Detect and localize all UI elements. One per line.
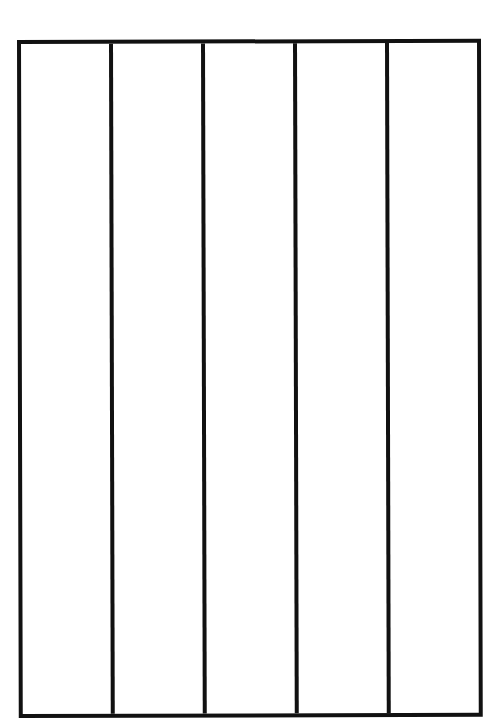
grid-column-5	[389, 43, 479, 713]
grid-column-1	[21, 44, 115, 714]
grid-column-2	[113, 44, 207, 714]
grid-column-3	[205, 43, 299, 713]
grid-column-4	[297, 43, 391, 713]
five-column-grid	[17, 39, 483, 718]
